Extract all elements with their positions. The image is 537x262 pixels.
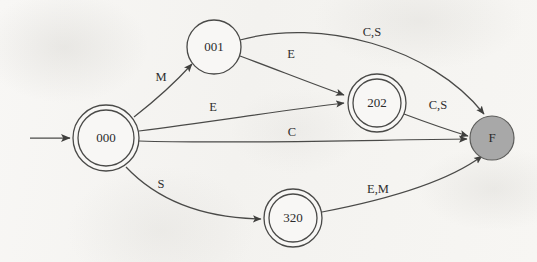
state-node-202[interactable]: 202 bbox=[348, 74, 406, 132]
transition-320-to-F[interactable]: E,M bbox=[322, 156, 482, 212]
transition-000-to-F[interactable]: C bbox=[139, 125, 467, 142]
transition-000-to-320[interactable]: S bbox=[126, 167, 261, 219]
state-label-320: 320 bbox=[283, 210, 303, 225]
transition-path bbox=[322, 156, 482, 212]
transition-label-CS-202-F: C,S bbox=[429, 98, 447, 112]
transition-label-S-000-320: S bbox=[158, 177, 165, 191]
state-label-202: 202 bbox=[367, 95, 387, 110]
state-label-F: F bbox=[488, 130, 495, 145]
transition-path bbox=[240, 56, 344, 95]
transition-path bbox=[139, 103, 344, 131]
transition-label-M: M bbox=[155, 70, 166, 84]
transitions-layer: M E C,S E C C,S bbox=[126, 25, 484, 219]
state-machine-canvas: M E C,S E C C,S bbox=[0, 0, 537, 262]
transition-path bbox=[139, 139, 467, 142]
transition-path bbox=[126, 167, 261, 219]
transition-202-to-F[interactable]: C,S bbox=[404, 98, 468, 136]
fsm-diagram-page: M E C,S E C C,S bbox=[0, 0, 537, 262]
transition-label-E-000-202: E bbox=[209, 100, 217, 114]
transition-000-to-202[interactable]: E bbox=[139, 100, 344, 131]
state-label-000: 000 bbox=[96, 130, 116, 145]
state-node-320[interactable]: 320 bbox=[264, 189, 322, 247]
transition-label-C-000-F: C bbox=[288, 125, 296, 139]
state-node-001[interactable]: 001 bbox=[187, 20, 241, 74]
transition-label-E-001-202: E bbox=[287, 47, 295, 61]
transition-label-EM-320-F: E,M bbox=[367, 182, 389, 196]
transition-001-to-202[interactable]: E bbox=[240, 47, 344, 95]
state-node-F[interactable]: F bbox=[470, 116, 514, 160]
transition-path bbox=[404, 114, 468, 136]
transition-000-to-001[interactable]: M bbox=[134, 64, 192, 117]
state-label-001: 001 bbox=[204, 39, 224, 54]
transition-label-CS-001-F: C,S bbox=[363, 25, 381, 39]
state-node-000[interactable]: 000 bbox=[73, 105, 139, 171]
